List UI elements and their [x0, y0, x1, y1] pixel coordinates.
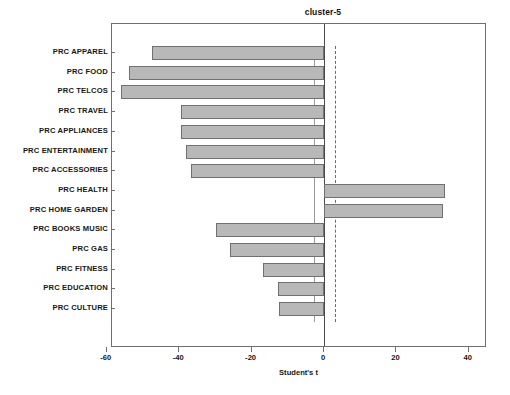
y-axis-tick [111, 308, 115, 309]
x-axis-tick-label: -20 [245, 353, 256, 362]
plot-inner [112, 24, 485, 346]
y-axis-label: PRC ENTERTAINMENT [23, 146, 108, 155]
y-axis-label: PRC GAS [72, 244, 108, 253]
y-axis-tick [111, 288, 115, 289]
bar [191, 164, 324, 178]
y-axis-label: PRC EDUCATION [43, 283, 108, 292]
y-axis-label: PRC APPLIANCES [39, 126, 108, 135]
y-axis-tick [111, 72, 115, 73]
y-axis-tick [111, 269, 115, 270]
y-axis-label: PRC TELCOS [58, 86, 108, 95]
plot-area [111, 23, 486, 347]
y-axis-label: PRC HEALTH [58, 185, 108, 194]
x-axis-tick [251, 347, 252, 352]
y-axis-tick [111, 111, 115, 112]
bar [324, 204, 443, 218]
y-axis-label: PRC HOME GARDEN [30, 205, 108, 214]
bar [121, 85, 324, 99]
y-axis-tick [111, 249, 115, 250]
x-axis-tick-label: -60 [100, 353, 111, 362]
bar [263, 263, 324, 277]
bar [278, 282, 324, 296]
x-axis-tick [106, 347, 107, 352]
bar [129, 66, 324, 80]
y-axis-tick [111, 151, 115, 152]
x-axis-tick [178, 347, 179, 352]
y-axis-tick [111, 170, 115, 171]
y-axis-label: PRC FITNESS [56, 264, 108, 273]
y-axis-label: PRC TRAVEL [59, 106, 108, 115]
y-axis-tick [111, 91, 115, 92]
chart-container: cluster-5 PRC APPARELPRC FOODPRC TELCOSP… [0, 0, 510, 395]
x-axis-tick [395, 347, 396, 352]
y-axis-label: PRC CULTURE [52, 303, 108, 312]
y-axis-tick [111, 52, 115, 53]
y-axis-tick [111, 190, 115, 191]
x-axis-tick-label: 40 [464, 353, 472, 362]
bar [181, 105, 324, 119]
x-axis-tick-label: -40 [173, 353, 184, 362]
x-axis-tick-label: 20 [391, 353, 399, 362]
x-axis-tick [323, 347, 324, 352]
bar [279, 302, 324, 316]
y-axis-label: PRC BOOKS MUSIC [33, 224, 108, 233]
y-axis-tick [111, 210, 115, 211]
y-axis-tick [111, 131, 115, 132]
y-axis-label: PRC FOOD [67, 67, 108, 76]
y-axis-label: PRC ACCESSORIES [33, 165, 108, 174]
bar [181, 125, 324, 139]
y-axis-tick [111, 229, 115, 230]
x-axis-tick [468, 347, 469, 352]
bar [152, 46, 324, 60]
bar [324, 184, 445, 198]
y-axis-label: PRC APPAREL [53, 47, 108, 56]
bar [230, 243, 324, 257]
x-axis-tick-label: 0 [321, 353, 325, 362]
chart-title: cluster-5 [68, 7, 510, 17]
bar [186, 145, 324, 159]
x-axis-title: Student's t [279, 368, 318, 377]
bar [216, 223, 324, 237]
